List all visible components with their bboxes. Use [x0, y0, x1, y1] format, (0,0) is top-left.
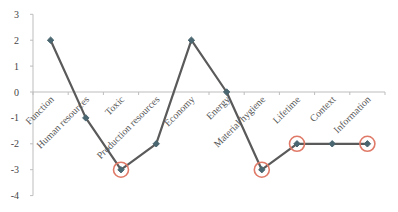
y-tick-label: 1: [14, 61, 19, 72]
x-category-label: Information: [331, 94, 373, 136]
data-point-marker: [47, 37, 53, 43]
x-category-label: Function: [23, 94, 56, 127]
data-point-marker: [364, 141, 370, 147]
y-tick-label: 3: [14, 9, 19, 20]
x-category-label: Energy: [204, 94, 232, 122]
y-tick-label: -4: [11, 190, 19, 201]
line-chart: 3210-1-2-3-4 FunctionHuman resourcesToxi…: [0, 0, 398, 212]
data-point-marker: [329, 141, 335, 147]
x-category-label: Toxic: [103, 93, 127, 117]
y-axis: 3210-1-2-3-4: [11, 9, 33, 201]
x-axis: [33, 92, 385, 95]
y-tick-label: -1: [11, 112, 19, 123]
x-category-label: Lifetime: [270, 93, 303, 126]
y-tick-label: 0: [14, 87, 19, 98]
y-tick-label: -2: [11, 138, 19, 149]
x-category-label: Context: [307, 93, 337, 123]
y-tick-label: -3: [11, 164, 19, 175]
y-tick-label: 2: [14, 35, 19, 46]
x-category-labels: FunctionHuman resourcesToxicProduction r…: [23, 93, 373, 161]
x-category-label: Production resources: [94, 94, 161, 161]
